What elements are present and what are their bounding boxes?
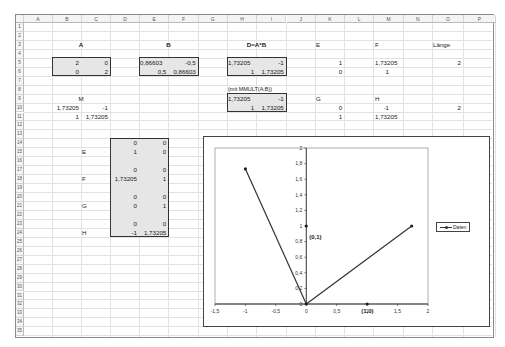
- y-tick-label: 1,2: [295, 207, 302, 213]
- y-tick-label: 0,4: [295, 270, 302, 276]
- y-tick-label: 1,4: [295, 192, 302, 198]
- x-tick-label: 0,5: [333, 308, 340, 314]
- point-annotation: (0,1): [309, 234, 321, 240]
- y-tick-label: 0,6: [295, 254, 302, 260]
- y-tick-label: 1: [300, 223, 303, 229]
- x-tick-label: -1,5: [211, 308, 220, 314]
- data-point: [410, 224, 413, 227]
- y-tick-label: 1,8: [295, 160, 302, 166]
- x-tick-label: -1: [243, 308, 248, 314]
- x-tick-label: 0: [305, 308, 308, 314]
- x-tick-label: 1,5: [394, 308, 401, 314]
- legend-label: Daten: [453, 223, 466, 231]
- chart-plot: -1,5-1-0,500,511,5200,20,40,60,811,21,41…: [0, 0, 505, 347]
- chart-legend[interactable]: Daten: [436, 222, 470, 232]
- y-tick-label: 0: [300, 301, 303, 307]
- data-point: [244, 167, 247, 170]
- y-tick-label: 0,8: [295, 238, 302, 244]
- y-tick-label: 1,6: [295, 176, 302, 182]
- data-point: [366, 302, 369, 305]
- point-annotation: (1,0): [361, 308, 373, 314]
- data-point: [305, 224, 308, 227]
- x-tick-label: 2: [427, 308, 430, 314]
- legend-marker-icon: [445, 226, 448, 229]
- y-tick-label: 2: [300, 145, 303, 151]
- x-tick-label: -0,5: [272, 308, 281, 314]
- data-point: [305, 302, 308, 305]
